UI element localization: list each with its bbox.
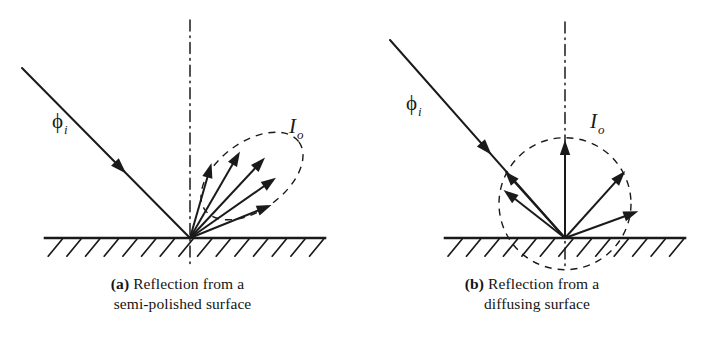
hatch-mark (559, 239, 573, 256)
reflected-ray-b-4 (509, 194, 565, 238)
caption-b-text1: Reflection from a (488, 275, 599, 292)
hatch-mark (485, 239, 499, 256)
reflected-ray-arrowhead-b-0 (622, 211, 638, 221)
caption-b-line1: (b) Reflection from a (355, 274, 709, 294)
caption-b-line2: diffusing surface (355, 294, 709, 314)
reflected-ray-arrowhead-b-2 (560, 140, 570, 155)
reflected-ray-arrowhead-b-4 (504, 190, 519, 203)
hatch-mark (540, 239, 554, 256)
hatch-mark (633, 239, 647, 256)
caption-panel-b: (b) Reflection from a diffusing surface (355, 274, 709, 315)
caption-panel-a: (a) Reflection from a semi-polished surf… (0, 274, 355, 315)
hatch-mark (522, 239, 536, 256)
caption-a-line2: semi-polished surface (0, 294, 355, 314)
caption-b-lead: (b) (465, 275, 484, 292)
caption-a-text1: Reflection from a (133, 275, 244, 292)
reflected-ray-line (509, 194, 565, 238)
reflected-ray-line (509, 176, 565, 238)
hatch-mark (614, 239, 628, 256)
hatch-mark (670, 239, 684, 256)
hatch-mark (466, 239, 480, 256)
intensity-label-b: Io (589, 109, 605, 137)
reflection-figure: ϕiIo ϕiIo (a) Reflection from a semi-pol… (0, 0, 709, 352)
hatch-mark (651, 239, 665, 256)
hatch-mark (448, 239, 462, 256)
caption-a-lead: (a) (111, 275, 129, 292)
caption-a-line1: (a) Reflection from a (0, 274, 355, 294)
reflected-ray-b-3 (509, 176, 565, 238)
incident-angle-label-b: ϕi (406, 91, 422, 119)
hatch-mark (577, 239, 591, 256)
